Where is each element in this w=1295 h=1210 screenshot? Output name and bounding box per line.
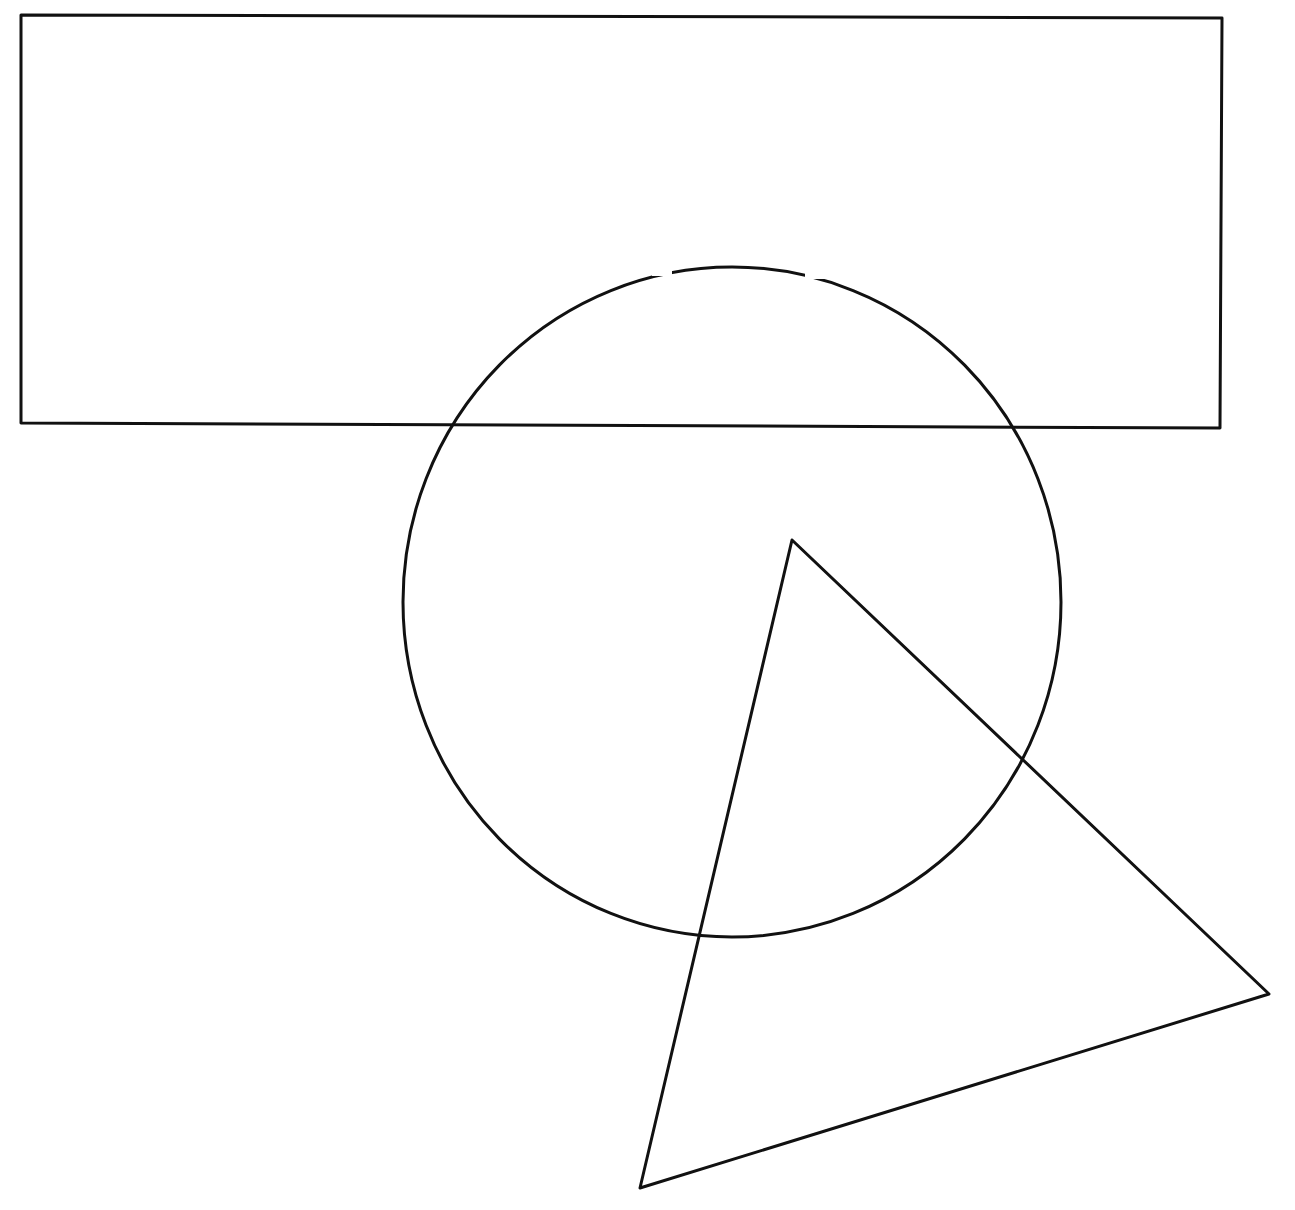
rectangle-shape bbox=[21, 15, 1222, 428]
circle-gap-left bbox=[652, 262, 672, 276]
circle-shape bbox=[403, 267, 1061, 937]
triangle-shape bbox=[640, 540, 1269, 1188]
diagram-canvas bbox=[0, 0, 1295, 1210]
circle-gap-right bbox=[805, 265, 825, 279]
